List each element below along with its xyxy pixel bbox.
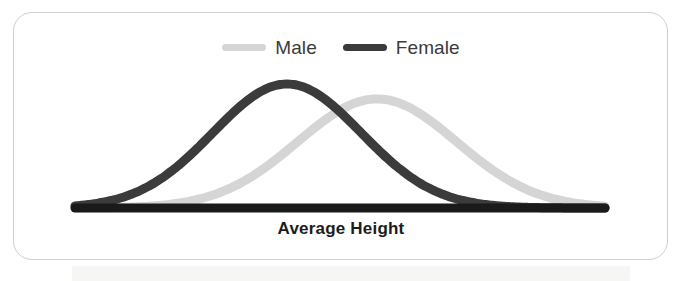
chart-screenshot: Male Female Average Height bbox=[0, 0, 682, 281]
page-background-band bbox=[72, 266, 630, 281]
x-axis-label: Average Height bbox=[0, 219, 682, 239]
